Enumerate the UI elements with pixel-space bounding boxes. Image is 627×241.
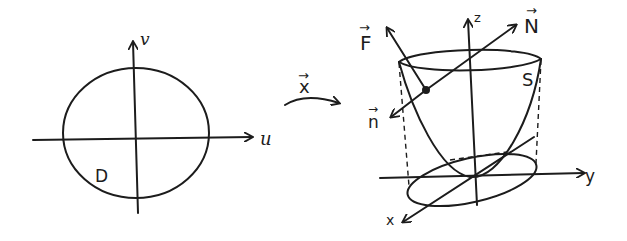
z-axis-label: z [474,10,481,25]
domain-panel: u v D [33,29,272,213]
mapping-arrow: x → [285,68,339,105]
vector-f [387,28,426,90]
vector-f-arrow-icon: → [359,20,370,35]
surface-point [422,86,430,94]
x-axis [403,137,534,222]
x-axis-label: x [386,212,394,228]
surface-panel: x y z S F → N → n → [359,3,595,228]
u-axis-label: u [260,128,272,149]
u-axis [33,137,252,140]
projected-region-ellipse [403,144,542,217]
mapping-arc-arrow-icon [285,98,339,105]
y-axis-label: y [585,166,595,186]
v-axis-label: v [140,29,150,49]
surface-s-label: S [522,69,533,90]
vector-n-upper-arrow-icon: → [526,3,537,18]
region-d-label: D [95,166,108,186]
vector-n-unit-arrow-icon: → [368,102,378,116]
mapping-vector-arrow-icon: → [298,68,309,83]
diagram-canvas: u v D x → x y z S F → N [0,0,627,241]
